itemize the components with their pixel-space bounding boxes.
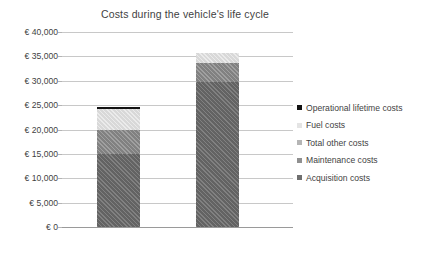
bar-segment-operational-lifetime-costs[interactable]	[97, 107, 140, 109]
legend-swatch-icon	[297, 123, 302, 128]
y-axis: € 40,000 € 35,000 € 30,000 € 25,000 € 20…	[0, 32, 58, 227]
legend-item-acquisition-costs[interactable]: Acquisition costs	[297, 169, 435, 187]
legend-label: Operational lifetime costs	[306, 103, 402, 113]
chart-container: Costs during the vehicle's life cycle € …	[0, 0, 435, 259]
y-tick-label: € 15,000	[2, 149, 58, 159]
bar-diesel[interactable]	[97, 108, 140, 228]
legend-label: Total other costs	[306, 138, 369, 148]
y-tick-label: € 0	[2, 222, 58, 232]
chart-legend: Operational lifetime costs Fuel costs To…	[297, 99, 435, 187]
y-tick-label: € 40,000	[2, 27, 58, 37]
chart-title: Costs during the vehicle's life cycle	[0, 8, 370, 20]
y-tick-label: € 5,000	[2, 198, 58, 208]
legend-swatch-icon	[297, 175, 302, 180]
bar-electric[interactable]	[196, 53, 239, 227]
legend-item-operational-lifetime-costs[interactable]: Operational lifetime costs	[297, 99, 435, 117]
bar-segment-acquisition-costs[interactable]	[97, 154, 140, 227]
bar-segment-fuel-costs[interactable]	[196, 53, 239, 63]
legend-item-maintenance-costs[interactable]: Maintenance costs	[297, 152, 435, 170]
legend-swatch-icon	[297, 105, 302, 110]
legend-swatch-icon	[297, 158, 302, 163]
legend-label: Maintenance costs	[306, 155, 378, 165]
y-tick-label: € 35,000	[2, 51, 58, 61]
y-tick-label: € 30,000	[2, 76, 58, 86]
gridline	[62, 105, 293, 106]
gridline	[62, 56, 293, 57]
legend-swatch-icon	[297, 140, 302, 145]
x-axis-line	[62, 227, 293, 228]
bar-segment-fuel-costs[interactable]	[97, 109, 140, 130]
bar-segment-acquisition-costs[interactable]	[196, 82, 239, 227]
y-tick-label: € 20,000	[2, 125, 58, 135]
bar-segment-maintenance-costs[interactable]	[196, 63, 239, 82]
y-tick-label: € 10,000	[2, 173, 58, 183]
bar-segment-maintenance-costs[interactable]	[97, 130, 140, 154]
legend-item-total-other-costs[interactable]: Total other costs	[297, 134, 435, 152]
y-tick-label: € 25,000	[2, 100, 58, 110]
legend-label: Acquisition costs	[306, 173, 370, 183]
plot-area: Diesel Electric	[62, 32, 293, 227]
gridline	[62, 32, 293, 33]
legend-item-fuel-costs[interactable]: Fuel costs	[297, 117, 435, 135]
legend-label: Fuel costs	[306, 120, 345, 130]
gridline	[62, 81, 293, 82]
